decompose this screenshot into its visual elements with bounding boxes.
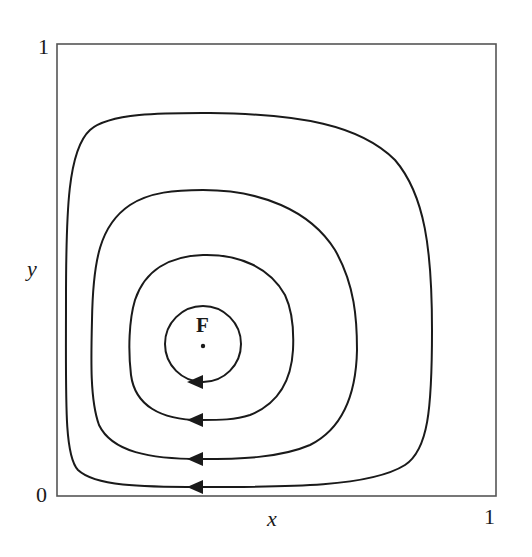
fixed-point-label: F — [196, 315, 209, 336]
fixed-point-dot — [201, 344, 205, 348]
y-min-tick-label: 0 — [36, 484, 47, 506]
orbit-4 — [66, 113, 432, 487]
x-max-tick-label: 1 — [484, 506, 495, 528]
orbit-2 — [129, 255, 293, 420]
y-axis-label: y — [27, 258, 37, 280]
y-max-tick-label: 1 — [38, 36, 49, 58]
phase-portrait-diagram — [0, 0, 532, 557]
arrow-left-icon — [187, 413, 203, 427]
arrow-left-icon — [187, 452, 203, 466]
arrow-left-icon — [187, 480, 203, 494]
x-axis-label: x — [267, 508, 277, 530]
arrow-left-icon — [187, 375, 203, 389]
